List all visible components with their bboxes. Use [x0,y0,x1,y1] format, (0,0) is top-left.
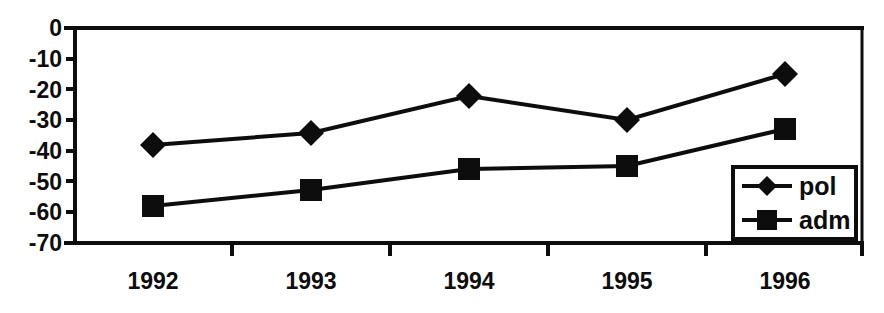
line-chart: 0 -10 -20 -30 -40 -50 -60 -70 1992 1993 … [0,0,884,313]
y-tick-label-1: -10 [29,46,62,72]
legend-label-pol: pol [799,172,837,200]
series-adm-point-1993 [300,179,322,201]
series-pol [140,61,798,158]
x-tick-label-1992: 1992 [127,268,178,294]
series-adm [142,118,796,217]
series-pol-point-1994 [456,83,482,109]
series-adm-point-1996 [774,118,796,140]
series-pol-point-1992 [140,132,166,158]
series-adm-point-1992 [142,195,164,217]
series-pol-point-1996 [772,61,798,87]
y-tick-label-4: -40 [29,138,62,164]
legend: pol adm [733,167,856,239]
series-pol-point-1995 [614,107,640,133]
series-pol-point-1993 [298,120,324,146]
legend-label-adm: adm [799,206,850,234]
y-tick-label-3: -30 [29,107,62,133]
chart-canvas: 0 -10 -20 -30 -40 -50 -60 -70 1992 1993 … [0,0,884,313]
series-adm-point-1995 [616,155,638,177]
x-tick-label-1996: 1996 [759,268,810,294]
y-tick-label-5: -50 [29,169,62,195]
y-tick-label-2: -20 [29,77,62,103]
square-icon [757,210,777,230]
y-axis-tick-labels: 0 -10 -20 -30 -40 -50 -60 -70 [29,15,62,256]
x-tick-label-1995: 1995 [601,268,652,294]
series-adm-point-1994 [458,158,480,180]
x-tick-label-1993: 1993 [285,268,336,294]
y-tick-label-6: -60 [29,199,62,225]
y-tick-label-0: 0 [49,15,62,41]
x-axis-tick-labels: 1992 1993 1994 1995 1996 [127,268,810,294]
y-tick-label-7: -70 [29,230,62,256]
x-tick-label-1994: 1994 [443,268,494,294]
